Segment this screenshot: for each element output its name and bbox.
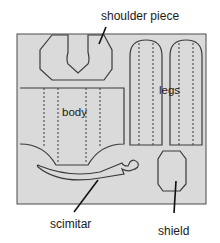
cutout-template-diagram	[0, 0, 220, 243]
shield-label: shield	[158, 225, 189, 237]
scimitar-label: scimitar	[50, 218, 91, 230]
body-label: body	[62, 107, 87, 119]
shoulder-piece-label: shoulder piece	[101, 10, 179, 22]
legs-label: legs	[159, 85, 180, 97]
